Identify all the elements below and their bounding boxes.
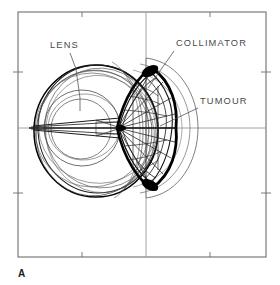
panel-label-a: A [18, 268, 25, 279]
label-collimator: COLLIMATOR [176, 38, 247, 48]
tumour-dense-apex [116, 125, 126, 131]
figure-panel: LENS COLLIMATOR TUMOUR A [0, 0, 280, 285]
label-lens: LENS [50, 40, 79, 50]
eye-proton-therapy-diagram: LENS COLLIMATOR TUMOUR A [0, 0, 280, 285]
label-tumour: TUMOUR [200, 96, 248, 106]
